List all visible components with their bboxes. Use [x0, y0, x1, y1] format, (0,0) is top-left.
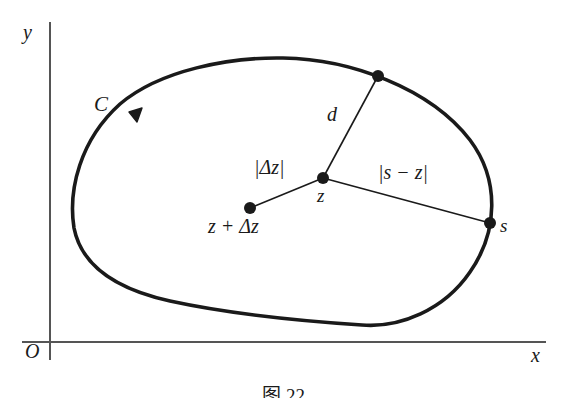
axes-group — [22, 22, 546, 360]
point-dot-s — [484, 217, 496, 229]
x-axis-label: x — [531, 345, 540, 365]
delta-z-segment-label: |Δz| — [254, 157, 285, 177]
origin-label: O — [25, 341, 39, 361]
figure-container: y x O C |Δz| d |s − z| z z + Δz s 图 22 — [0, 0, 567, 398]
point-label-s: s — [500, 216, 507, 235]
delta-z-segment-line — [250, 178, 323, 208]
y-axis-label: y — [23, 22, 32, 42]
figure-caption: 图 22 — [0, 380, 567, 398]
s-minus-z-segment-line — [323, 178, 490, 223]
point-label-z: z — [317, 186, 324, 205]
point-dot-nearest-contour-point — [372, 70, 384, 82]
contour-curve-c — [73, 58, 492, 325]
s-minus-z-segment-label: |s − z| — [378, 162, 428, 182]
d-segment-label: d — [327, 104, 337, 124]
point-dot-z — [317, 172, 329, 184]
point-dot-z-plus-delta-z — [244, 202, 256, 214]
point-label-z-plus-delta-z: z + Δz — [208, 216, 259, 236]
figure-canvas — [0, 0, 567, 398]
segments-group — [250, 76, 490, 223]
direction-arrow-icon — [129, 108, 142, 122]
d-segment-line — [323, 76, 378, 178]
contour-label-c: C — [94, 94, 108, 115]
points-group — [244, 70, 496, 229]
